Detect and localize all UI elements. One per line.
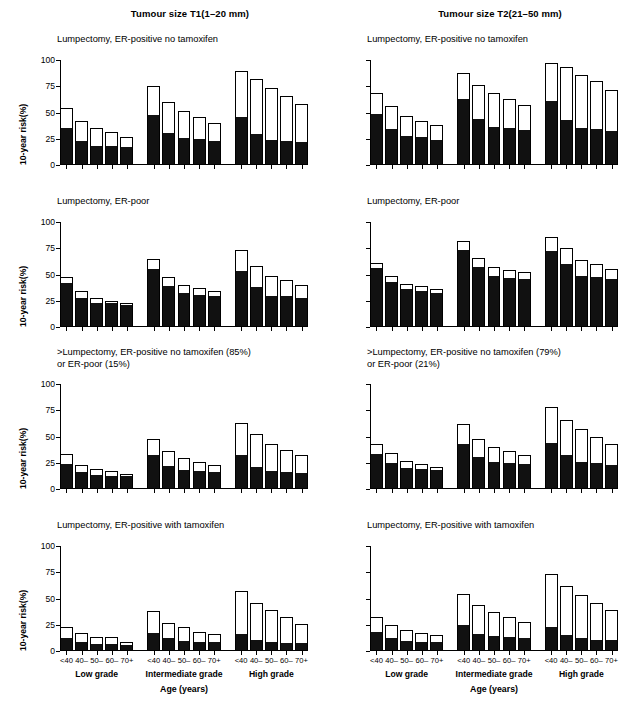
x-tick-label: 70+ — [295, 657, 308, 665]
bar — [280, 280, 293, 327]
x-tick — [551, 327, 552, 331]
bar-lower-segment — [194, 139, 205, 164]
x-tick — [302, 327, 303, 331]
x-tick — [66, 651, 67, 655]
x-tick — [271, 327, 272, 331]
x-tick — [199, 165, 200, 169]
bar — [235, 250, 248, 327]
bar-lower-segment — [561, 635, 572, 650]
x-tick — [566, 489, 567, 493]
bar — [575, 260, 588, 327]
bar-lower-segment — [281, 472, 292, 488]
y-tick-label: 0 — [50, 323, 55, 332]
x-tick — [199, 327, 200, 331]
bar-lower-segment — [386, 282, 397, 326]
x-tick — [596, 165, 597, 169]
x-tick — [392, 489, 393, 493]
bar-lower-segment — [266, 296, 277, 326]
x-tick — [66, 327, 67, 331]
x-tick — [154, 651, 155, 655]
bar — [457, 424, 470, 489]
bar — [415, 286, 428, 327]
bar — [178, 627, 191, 651]
plot-area-t1-more-than-lumpectomy: 0255075100 — [60, 384, 308, 489]
bar — [400, 461, 413, 489]
bar-lower-segment — [519, 464, 530, 488]
x-tick — [407, 327, 408, 331]
bar — [385, 276, 398, 327]
y-tick-label: 25 — [45, 458, 55, 467]
bar-lower-segment — [91, 146, 102, 164]
bar-lower-segment — [519, 279, 530, 326]
bar — [545, 407, 558, 489]
x-tick — [551, 489, 552, 493]
x-tick — [214, 165, 215, 169]
x-tick-label: 50– — [178, 657, 191, 665]
x-tick-label: 60– — [193, 657, 206, 665]
x-tick — [169, 651, 170, 655]
bar-lower-segment — [371, 268, 382, 326]
y-tick — [56, 651, 60, 652]
bar — [385, 106, 398, 165]
bar — [75, 121, 88, 165]
bar-lower-segment — [473, 457, 484, 489]
bar — [235, 423, 248, 489]
x-tick — [612, 327, 613, 331]
bar-lower-segment — [76, 472, 87, 488]
bar — [235, 591, 248, 651]
bar-lower-segment — [163, 466, 174, 488]
y-tick — [56, 572, 60, 573]
x-tick — [97, 489, 98, 493]
panel-title: Lumpectomy, ER-positive with tamoxifen — [57, 520, 224, 532]
x-tick — [376, 489, 377, 493]
x-tick — [509, 489, 510, 493]
x-tick — [66, 165, 67, 169]
bar — [488, 93, 501, 165]
bar — [415, 633, 428, 651]
panel-title: >Lumpectomy, ER-positive no tamoxifen (7… — [367, 347, 561, 359]
x-tick-label: 60– — [280, 657, 293, 665]
bar — [370, 617, 383, 651]
x-tick — [271, 489, 272, 493]
x-tick — [184, 651, 185, 655]
bar-lower-segment — [576, 638, 587, 650]
y-tick — [366, 248, 370, 249]
bar — [415, 464, 428, 489]
x-tick — [184, 327, 185, 331]
x-tick — [437, 327, 438, 331]
bar — [178, 111, 191, 165]
bar — [265, 610, 278, 651]
x-tick — [581, 327, 582, 331]
x-tick-label: 70+ — [430, 657, 443, 665]
plot-area-t2-er-pos-no-tam — [370, 60, 618, 165]
y-tick — [56, 86, 60, 87]
x-tick-label: <40 — [60, 657, 73, 665]
bar-lower-segment — [431, 293, 442, 326]
x-tick-label: 50– — [265, 657, 278, 665]
x-tick — [241, 327, 242, 331]
bar-lower-segment — [148, 115, 159, 164]
bar-lower-segment — [431, 642, 442, 650]
x-tick — [214, 651, 215, 655]
x-tick — [241, 651, 242, 655]
bar — [105, 471, 118, 489]
x-tick — [169, 327, 170, 331]
y-tick-label: 50 — [45, 108, 55, 117]
bar-lower-segment — [163, 638, 174, 650]
bar-lower-segment — [546, 251, 557, 326]
bar — [295, 104, 308, 165]
panel-title: Lumpectomy, ER-positive no tamoxifen — [57, 34, 218, 46]
bar — [430, 467, 443, 489]
bar-lower-segment — [281, 141, 292, 164]
x-tick — [154, 489, 155, 493]
x-group-label: High grade — [249, 670, 294, 679]
bar — [147, 611, 160, 651]
bar — [295, 624, 308, 651]
x-tick — [509, 327, 510, 331]
x-tick — [82, 327, 83, 331]
x-tick — [97, 165, 98, 169]
bar-lower-segment — [561, 120, 572, 164]
x-group-label: Low grade — [75, 670, 118, 679]
bar-lower-segment — [296, 142, 307, 164]
x-tick — [612, 489, 613, 493]
